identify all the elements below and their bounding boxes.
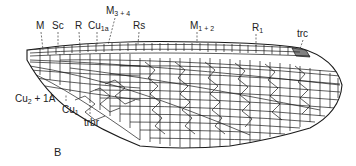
label-m: M xyxy=(36,21,44,31)
label-m34: M3 + 4 xyxy=(106,6,130,17)
label-sc-text: Sc xyxy=(52,20,64,31)
label-cu2-1a: Cu2 + 1A xyxy=(15,94,55,105)
label-trbr-text: trbr xyxy=(84,117,99,128)
label-cu2-text: Cu xyxy=(15,93,28,104)
label-cu1a: Cu1a xyxy=(88,21,109,32)
label-rs: Rs xyxy=(133,21,145,31)
label-r1-sub: 1 xyxy=(259,27,263,34)
vein-sc xyxy=(30,49,300,53)
label-sc: Sc xyxy=(52,21,64,31)
label-cu2-suffix: + 1A xyxy=(32,93,56,104)
label-trbr: trbr xyxy=(84,118,99,128)
label-r: R xyxy=(75,21,82,31)
label-r1: R1 xyxy=(252,23,263,34)
label-r-text: R xyxy=(75,20,82,31)
panel-label: B xyxy=(54,146,61,158)
label-m34-sub: 3 + 4 xyxy=(114,10,130,17)
label-trc-text: trc xyxy=(297,28,308,39)
vein-r xyxy=(30,53,310,56)
label-rs-text: Rs xyxy=(133,20,145,31)
wing-outline xyxy=(27,42,342,149)
label-m-text: M xyxy=(36,20,44,31)
label-cu1a-text: Cu xyxy=(88,20,101,31)
label-cu1-text: Cu xyxy=(62,104,75,115)
label-m12: M1 + 2 xyxy=(190,21,214,32)
label-cu1a-sub: 1a xyxy=(101,25,109,32)
label-trc: trc xyxy=(297,29,308,39)
label-m12-sub: 1 + 2 xyxy=(198,25,214,32)
label-cu1: Cu1 xyxy=(62,105,79,116)
label-cu1-sub: 1 xyxy=(75,109,79,116)
